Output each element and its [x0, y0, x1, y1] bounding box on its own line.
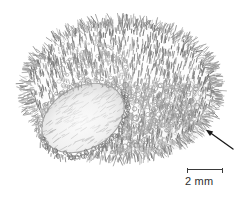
figure-root: 2 mm [0, 0, 245, 218]
scale-bar: 2 mm [185, 166, 233, 194]
scale-bar-line [187, 169, 223, 170]
scale-bar-label: 2 mm [185, 175, 213, 188]
pointer-arrow [206, 130, 233, 149]
scale-bar-tick-right [222, 168, 223, 173]
